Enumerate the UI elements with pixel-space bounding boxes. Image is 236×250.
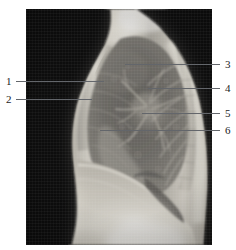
leader-line-5 <box>142 113 220 114</box>
label-number-5: 5 <box>225 108 231 119</box>
leader-line-6 <box>100 130 220 131</box>
chest-xray-render <box>26 9 212 245</box>
leader-line-1 <box>16 81 104 82</box>
leader-line-2 <box>16 99 92 100</box>
leader-line-3 <box>125 64 220 65</box>
leader-line-4 <box>148 88 220 89</box>
label-number-6: 6 <box>225 125 231 136</box>
label-number-2: 2 <box>6 94 12 105</box>
label-number-4: 4 <box>225 83 231 94</box>
chest-xray-image <box>26 9 212 245</box>
label-number-1: 1 <box>6 76 12 87</box>
anatomy-figure: 1 2 3 4 5 6 <box>0 0 236 250</box>
label-number-3: 3 <box>225 59 231 70</box>
